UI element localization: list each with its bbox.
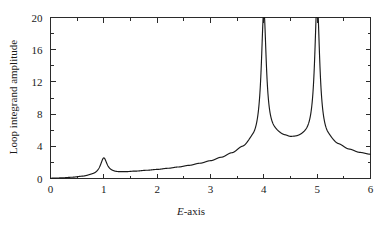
- data-series-curve: [51, 18, 371, 179]
- x-tick-label: 3: [208, 183, 214, 195]
- x-axis-title: E-axis: [176, 205, 205, 217]
- axis-frame: [51, 18, 371, 179]
- y-tick-label: 0: [37, 173, 43, 185]
- x-tick-label: 5: [314, 183, 320, 195]
- x-axis-tick-labels: 0123456: [48, 183, 374, 195]
- axis-ticks: [51, 18, 371, 179]
- y-tick-label: 4: [37, 140, 43, 152]
- chart-plot-area: 0123456 048121620 E-axis Loop integrand …: [0, 0, 382, 227]
- series-path: [51, 18, 371, 179]
- y-tick-label: 16: [32, 44, 44, 56]
- x-tick-label: 4: [261, 183, 267, 195]
- y-tick-label: 8: [37, 108, 43, 120]
- x-tick-label: 6: [368, 183, 374, 195]
- chart-figure: 0123456 048121620 E-axis Loop integrand …: [0, 0, 382, 227]
- y-tick-label: 12: [32, 76, 43, 88]
- x-tick-label: 1: [101, 183, 107, 195]
- x-tick-label: 0: [48, 183, 54, 195]
- y-tick-label: 20: [32, 12, 44, 24]
- y-axis-tick-labels: 048121620: [32, 12, 44, 185]
- x-tick-label: 2: [154, 183, 160, 195]
- y-axis-title: Loop integrand amplitude: [7, 40, 19, 154]
